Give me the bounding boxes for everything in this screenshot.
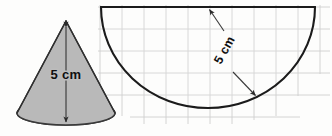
- cone-height-label: 5 cm: [51, 67, 82, 82]
- figure-canvas: 5 cm 5 cm 5 cm: [0, 0, 332, 136]
- geometry-figure: 5 cm 5 cm 5 cm: [0, 0, 332, 136]
